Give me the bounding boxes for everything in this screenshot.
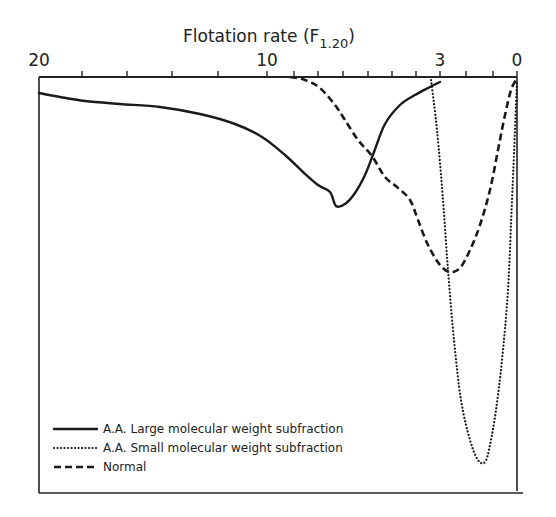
data-series xyxy=(39,77,517,463)
series-solid-line xyxy=(39,82,440,207)
series-dotted-line xyxy=(431,80,517,463)
legend-label: A.A. Large molecular weight subfraction xyxy=(103,422,343,436)
chart-title: Flotation rate (F1.20) xyxy=(183,26,355,51)
tick-label: 3 xyxy=(435,50,446,70)
legend: A.A. Large molecular weight subfractionA… xyxy=(54,422,343,474)
tick-label: 10 xyxy=(256,50,278,70)
chart: Flotation rate (F1.20) 201030 A.A. Large… xyxy=(0,0,556,517)
series-dashed-line xyxy=(290,77,516,272)
tick-label: 0 xyxy=(512,50,523,70)
legend-label: A.A. Small molecular weight subfraction xyxy=(103,441,343,455)
legend-label: Normal xyxy=(103,460,146,474)
x-axis-tick-labels: 201030 xyxy=(28,50,522,70)
tick-label: 20 xyxy=(28,50,50,70)
